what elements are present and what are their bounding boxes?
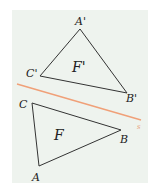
label-b: B — [120, 134, 128, 145]
label-f: F — [54, 128, 64, 142]
label-a: A — [32, 172, 40, 183]
triangle-f — [32, 103, 121, 166]
label-b-prime: B' — [126, 93, 137, 104]
label-a-prime: A' — [75, 16, 86, 27]
reflection-line — [17, 84, 141, 120]
label-line-s: s — [137, 124, 141, 131]
label-c-prime: C' — [26, 68, 37, 79]
label-c: C — [19, 99, 27, 110]
label-f-prime: F' — [72, 60, 86, 74]
